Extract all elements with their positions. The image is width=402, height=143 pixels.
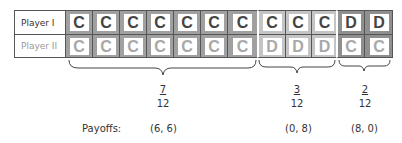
payoff-group-3: (8, 0) [351, 123, 378, 134]
fraction-group-2: 3 12 [285, 84, 309, 110]
brace-group-1 [69, 60, 256, 75]
fraction-denominator: 12 [151, 98, 175, 110]
fraction-group-1: 7 12 [151, 84, 175, 110]
fraction-group-3: 2 12 [353, 84, 377, 110]
fraction-numerator: 7 [151, 84, 175, 96]
fraction-denominator: 12 [353, 98, 377, 110]
fraction-denominator: 12 [285, 98, 309, 110]
fraction-numerator: 2 [353, 84, 377, 96]
brace-group-2 [259, 60, 335, 73]
brace-group-3 [339, 60, 390, 71]
payoff-group-1: (6, 6) [150, 123, 177, 134]
payoff-group-2: (0, 8) [285, 123, 312, 134]
payoffs-label: Payoffs: [82, 123, 121, 134]
braces [0, 0, 402, 143]
fraction-numerator: 3 [285, 84, 309, 96]
